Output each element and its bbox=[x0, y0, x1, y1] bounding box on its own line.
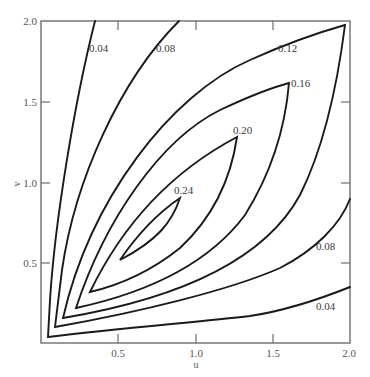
y-axis: 0.5 1.0 1.5 2.0 v bbox=[11, 15, 350, 269]
x-tick-label: 1.0 bbox=[189, 347, 203, 359]
y-tick-label: 0.5 bbox=[23, 257, 37, 269]
y-tick-label: 2.0 bbox=[23, 15, 37, 27]
plot-frame bbox=[41, 21, 350, 343]
y-tick-label: 1.5 bbox=[23, 96, 37, 108]
y-axis-label: v bbox=[11, 182, 22, 187]
y-tick-label: 1.0 bbox=[23, 177, 37, 189]
contour-label-0.08-right: 0.08 bbox=[316, 240, 336, 252]
contour-lines bbox=[48, 21, 350, 337]
contour-label-0.12: 0.12 bbox=[278, 42, 297, 54]
contour-0.20 bbox=[90, 137, 237, 292]
contour-chart: 0.5 1.0 1.5 2.0 u 0.5 1.0 1.5 2.0 v bbox=[0, 0, 370, 377]
contour-0.12 bbox=[63, 25, 345, 318]
x-axis-label: u bbox=[194, 359, 199, 370]
x-tick-label: 1.5 bbox=[266, 347, 280, 359]
x-tick-label: 0.5 bbox=[111, 347, 125, 359]
contour-label-0.20: 0.20 bbox=[233, 124, 253, 136]
contour-0.08 bbox=[55, 21, 350, 327]
contour-label-0.08-top: 0.08 bbox=[156, 42, 176, 54]
contour-0.04 bbox=[48, 21, 350, 337]
contour-label-0.24: 0.24 bbox=[174, 184, 194, 196]
contour-label-0.04-top: 0.04 bbox=[89, 42, 109, 54]
contour-label-0.16: 0.16 bbox=[291, 77, 311, 89]
contour-label-0.04-right: 0.04 bbox=[316, 300, 336, 312]
x-tick-label: 2.0 bbox=[342, 347, 356, 359]
